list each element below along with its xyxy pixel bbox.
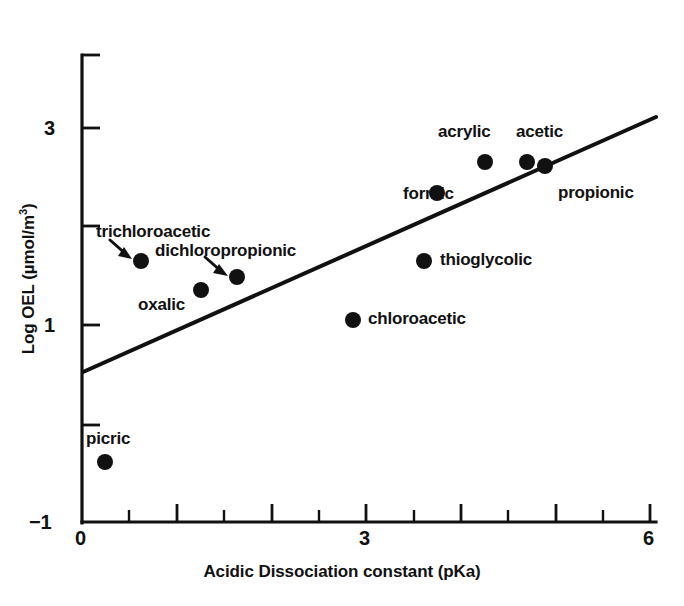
point-label-acrylic: acrylic — [438, 122, 490, 142]
y-axis-title-main: Log OEL (µmol/m — [19, 215, 38, 354]
data-point-acetic[interactable] — [519, 154, 535, 170]
data-point-trichloroacetic[interactable] — [133, 253, 149, 269]
data-point-picric[interactable] — [97, 454, 113, 470]
y-tick-label-minus-1: −1 — [29, 511, 51, 534]
scatter-plot: 3 1 −1 0 3 6 picric trichloroacetic oxal… — [0, 0, 684, 606]
point-label-thioglycolic: thioglycolic — [440, 250, 532, 270]
point-label-picric: picric — [86, 429, 130, 449]
y-tick-label-3: 3 — [44, 117, 55, 140]
point-label-acetic: acetic — [516, 122, 563, 142]
point-label-chloroacetic: chloroacetic — [368, 309, 466, 329]
data-point-propionic[interactable] — [537, 158, 553, 174]
point-label-formic: formic — [403, 184, 454, 204]
y-axis-title-exponent: 3 — [17, 209, 29, 215]
point-label-dichloropropionic: dichloropropionic — [155, 241, 296, 261]
plot-canvas — [0, 0, 684, 606]
x-axis-title: Acidic Dissociation constant (pKa) — [0, 562, 684, 582]
data-point-thioglycolic[interactable] — [416, 253, 432, 269]
y-axis-title: Log OEL (µmol/m3) — [17, 159, 39, 399]
x-tick-label-0: 0 — [75, 527, 86, 550]
point-label-propionic: propionic — [558, 183, 634, 203]
data-point-chloroacetic[interactable] — [345, 312, 361, 328]
x-tick-label-6: 6 — [643, 527, 654, 550]
y-tick-label-1: 1 — [44, 314, 55, 337]
point-label-oxalic: oxalic — [138, 295, 185, 315]
data-point-acrylic[interactable] — [477, 154, 493, 170]
data-point-dichloropropionic[interactable] — [229, 269, 245, 285]
y-axis-title-tail: ) — [19, 203, 38, 209]
point-label-trichloroacetic: trichloroacetic — [96, 222, 210, 242]
data-point-oxalic[interactable] — [193, 282, 209, 298]
x-tick-label-3: 3 — [359, 527, 370, 550]
